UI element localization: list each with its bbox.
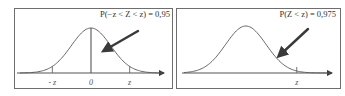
figure: - z0z P(−z < Z < z) = 0,95 z P(Z < z) = … — [0, 0, 345, 96]
chart-right: z P(Z < z) = 0,975 — [177, 9, 341, 89]
probability-annotation: P(−z < Z < z) = 0,95 — [100, 9, 170, 19]
probability-annotation: P(Z < z) = 0,975 — [279, 9, 336, 19]
chart-right-frame — [177, 9, 341, 89]
chart-left-frame — [15, 9, 173, 89]
x-tick-label: - z — [48, 78, 57, 87]
chart-left: - z0z P(−z < Z < z) = 0,95 — [15, 9, 173, 89]
x-tick-label: 0 — [89, 78, 93, 87]
